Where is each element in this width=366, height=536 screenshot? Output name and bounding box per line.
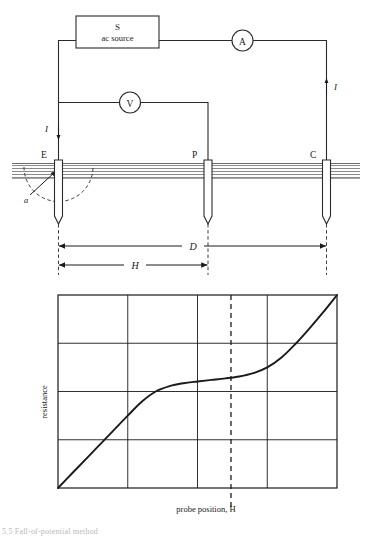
ac-source-box: S ac source <box>76 16 159 48</box>
dimension-D-label: D <box>188 241 197 252</box>
resistance-chart: resistance probe position, H <box>39 295 337 514</box>
electrode-E-label: E <box>41 150 47 160</box>
dimension-D: D <box>59 239 326 253</box>
wire-voltmeter-to-P <box>141 103 208 169</box>
ammeter-label: A <box>239 37 246 47</box>
electrode-P-label: P <box>192 150 197 160</box>
ground-band <box>12 163 360 179</box>
electrode-C-label: C <box>310 150 316 160</box>
current-label-right: I <box>333 82 338 92</box>
electrode-C: C <box>310 150 331 224</box>
dimension-H: H <box>59 258 208 272</box>
current-label-left: I <box>44 124 49 134</box>
y-axis-label: resistance <box>39 385 49 419</box>
source-label-type: ac source <box>102 33 134 43</box>
source-label-s: S <box>115 22 120 32</box>
voltmeter-label: V <box>127 99 134 109</box>
x-axis-label: probe position, H <box>176 504 235 514</box>
circuit-diagram: S ac source A V a <box>12 16 360 275</box>
electrode-E: E <box>41 150 63 224</box>
ammeter: A <box>232 30 253 51</box>
wire-ammeter-to-C <box>253 41 327 169</box>
electrode-P: P <box>192 150 212 224</box>
dimension-H-label: H <box>130 260 139 271</box>
current-arrow-left: I <box>44 124 59 140</box>
voltmeter: V <box>120 92 141 113</box>
circuit-wires <box>59 41 327 169</box>
current-arrow-right: I <box>327 78 339 95</box>
figure-caption: 5.5 Fall-of-potential method <box>2 527 98 536</box>
wire-source-to-E <box>59 41 77 169</box>
hemisphere-radius-label: a <box>24 195 28 205</box>
